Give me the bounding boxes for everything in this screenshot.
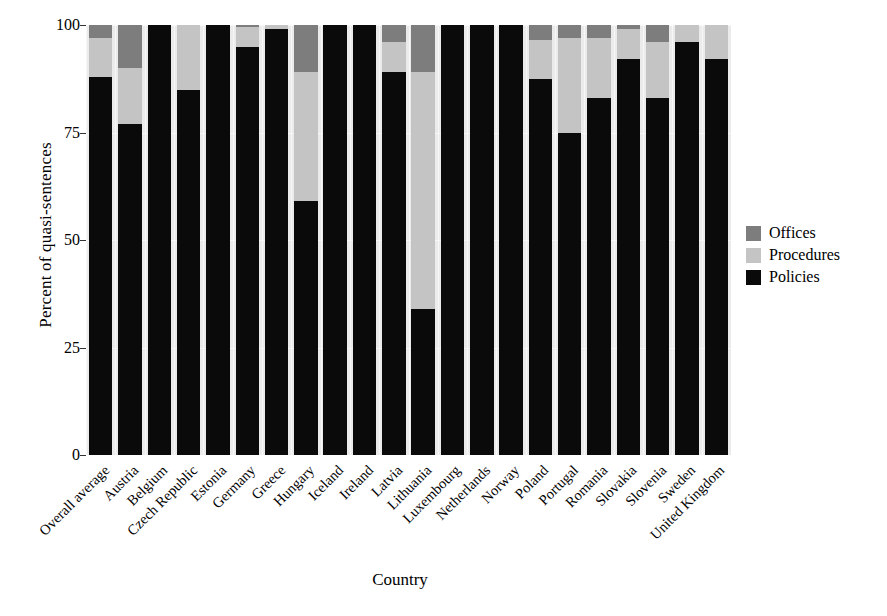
bar-austria[interactable] xyxy=(118,25,141,455)
gridline-vertical xyxy=(496,25,497,455)
gridline-vertical xyxy=(291,25,292,455)
bar-segment-procedures xyxy=(646,42,669,98)
gridline-vertical xyxy=(262,25,263,455)
y-tick-label: 25 xyxy=(10,339,80,357)
gridline-vertical xyxy=(438,25,439,455)
bar-segment-policies xyxy=(441,25,464,455)
gridline-vertical xyxy=(643,25,644,455)
gridline-vertical xyxy=(702,25,703,455)
bar-segment-procedures xyxy=(236,27,259,46)
gridline-vertical xyxy=(145,25,146,455)
bar-segment-policies xyxy=(148,25,171,455)
bar-belgium[interactable] xyxy=(148,25,171,455)
x-axis-title: Country xyxy=(0,570,800,590)
gridline-vertical xyxy=(409,25,410,455)
bar-segment-policies xyxy=(89,77,112,455)
bar-iceland[interactable] xyxy=(323,25,346,455)
bar-segment-offices xyxy=(89,25,112,38)
bar-germany[interactable] xyxy=(236,25,259,455)
bar-segment-procedures xyxy=(294,72,317,201)
bar-segment-offices xyxy=(118,25,141,68)
gridline-vertical xyxy=(614,25,615,455)
legend-swatch-procedures xyxy=(746,248,761,263)
bar-slovakia[interactable] xyxy=(617,25,640,455)
bar-sweden[interactable] xyxy=(675,25,698,455)
bar-poland[interactable] xyxy=(529,25,552,455)
bar-segment-policies xyxy=(177,90,200,456)
bar-overall-average[interactable] xyxy=(89,25,112,455)
bar-segment-offices xyxy=(411,25,434,72)
bar-hungary[interactable] xyxy=(294,25,317,455)
legend-item-offices[interactable]: Offices xyxy=(746,222,881,244)
bar-segment-procedures xyxy=(558,38,581,133)
bar-segment-policies xyxy=(265,29,288,455)
bar-greece[interactable] xyxy=(265,25,288,455)
gridline-vertical xyxy=(584,25,585,455)
bar-latvia[interactable] xyxy=(382,25,405,455)
bar-segment-policies xyxy=(705,59,728,455)
bar-segment-offices xyxy=(587,25,610,38)
bar-segment-policies xyxy=(323,25,346,455)
bar-segment-policies xyxy=(118,124,141,455)
y-tick-label: 50 xyxy=(10,231,80,249)
y-tick-label: 100 xyxy=(10,16,80,34)
gridline-vertical xyxy=(321,25,322,455)
legend-label: Procedures xyxy=(769,247,840,263)
gridline-vertical xyxy=(115,25,116,455)
bar-romania[interactable] xyxy=(587,25,610,455)
bar-segment-procedures xyxy=(529,40,552,79)
bar-segment-procedures xyxy=(382,42,405,72)
bar-segment-procedures xyxy=(265,25,288,29)
gridline-vertical xyxy=(379,25,380,455)
bar-segment-procedures xyxy=(89,38,112,77)
legend-label: Offices xyxy=(769,225,816,241)
bar-united-kingdom[interactable] xyxy=(705,25,728,455)
bar-segment-procedures xyxy=(617,29,640,59)
bar-segment-offices xyxy=(236,25,259,27)
bar-segment-policies xyxy=(617,59,640,455)
bar-segment-policies xyxy=(587,98,610,455)
bar-segment-offices xyxy=(529,25,552,40)
bar-estonia[interactable] xyxy=(206,25,229,455)
gridline-vertical xyxy=(467,25,468,455)
y-tick-label: 75 xyxy=(10,124,80,142)
gridline-vertical xyxy=(203,25,204,455)
bar-slovenia[interactable] xyxy=(646,25,669,455)
legend-item-policies[interactable]: Policies xyxy=(746,266,881,288)
chart-figure: Percent of quasi-sentences 0255075100 Ov… xyxy=(0,0,887,616)
gridline-vertical xyxy=(350,25,351,455)
chart-legend: OfficesProceduresPolicies xyxy=(746,222,881,288)
y-tick-label: 0 xyxy=(10,446,80,464)
bar-segment-offices xyxy=(294,25,317,72)
bar-segment-policies xyxy=(470,25,493,455)
caption-fragment xyxy=(12,604,712,616)
bar-segment-policies xyxy=(529,79,552,455)
legend-label: Policies xyxy=(769,269,820,285)
legend-swatch-offices xyxy=(746,226,761,241)
bar-luxembourg[interactable] xyxy=(441,25,464,455)
bar-segment-procedures xyxy=(411,72,434,309)
legend-swatch-policies xyxy=(746,270,761,285)
bar-lithuania[interactable] xyxy=(411,25,434,455)
bar-segment-offices xyxy=(558,25,581,38)
gridline-vertical xyxy=(233,25,234,455)
bar-segment-policies xyxy=(675,42,698,455)
bar-segment-offices xyxy=(382,25,405,42)
bar-ireland[interactable] xyxy=(353,25,376,455)
bar-segment-policies xyxy=(499,25,522,455)
gridline-vertical xyxy=(174,25,175,455)
gridline-vertical xyxy=(526,25,527,455)
bar-czech-republic[interactable] xyxy=(177,25,200,455)
bar-segment-procedures xyxy=(587,38,610,98)
bar-segment-policies xyxy=(236,47,259,456)
bar-segment-policies xyxy=(353,25,376,455)
bar-segment-policies xyxy=(646,98,669,455)
y-tick-mark xyxy=(80,455,86,456)
bar-segment-policies xyxy=(206,25,229,455)
bar-portugal[interactable] xyxy=(558,25,581,455)
bar-segment-offices xyxy=(646,25,669,42)
legend-item-procedures[interactable]: Procedures xyxy=(746,244,881,266)
bar-norway[interactable] xyxy=(499,25,522,455)
bar-segment-procedures xyxy=(675,25,698,42)
bar-netherlands[interactable] xyxy=(470,25,493,455)
